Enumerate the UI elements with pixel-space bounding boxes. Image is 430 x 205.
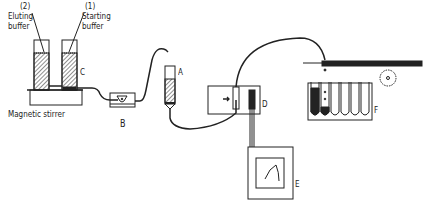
column <box>165 66 175 109</box>
recorder-label: E <box>295 180 300 189</box>
magnetic-stirrer-box <box>30 90 82 105</box>
eluting-buffer-number: (2) <box>20 2 30 11</box>
apparatus-diagram: (2) Eluting buffer (1) Starting buffer C… <box>0 0 430 205</box>
chart-recorder-box <box>248 147 293 199</box>
mixer-label: C <box>80 68 85 77</box>
column-label: A <box>178 68 183 77</box>
starting-buffer-label: Starting <box>82 12 111 21</box>
pump-label: B <box>120 119 126 128</box>
gear-wheel <box>380 70 396 86</box>
diagram-drawing <box>0 0 430 205</box>
fraction-collector-label: F <box>374 106 378 115</box>
eluting-buffer-label-2: buffer <box>8 22 29 31</box>
magnetic-stirrer-label: Magnetic stirrer <box>8 110 65 119</box>
starting-buffer-label-2: buffer <box>82 22 103 31</box>
fraction-collector-rack <box>308 82 372 120</box>
detector-label: D <box>262 100 268 109</box>
starting-buffer-vessel <box>62 40 77 90</box>
starting-buffer-number: (1) <box>85 2 95 11</box>
eluting-buffer-label: Eluting <box>8 12 33 21</box>
eluting-buffer-vessel <box>34 40 49 90</box>
